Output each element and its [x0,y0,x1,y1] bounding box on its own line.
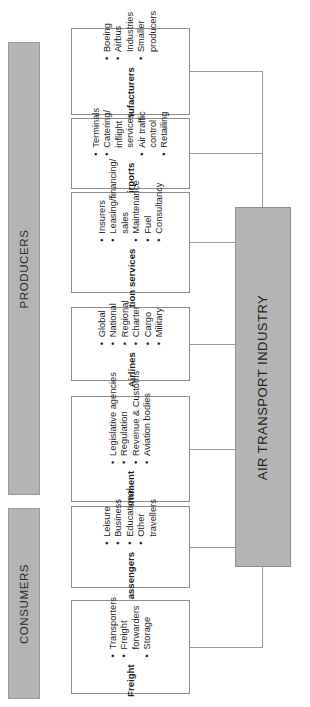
list-item: sales [119,211,130,241]
connector-airports [190,153,263,154]
connector-hub-bottom [262,566,263,584]
list-item: Storage [142,617,153,658]
list-item: Freight [119,620,130,657]
group-banner-producers: PRODUCERS [8,42,40,495]
category-title-freight: Freight [125,664,136,697]
list-item: control [148,119,159,155]
list-item: producers [148,10,159,59]
category-box-aviation-services[interactable]: Aviation services Insurers Leasing/finan… [71,192,190,293]
connector-manufacturers [190,71,263,72]
list-item: Leasing/financing/ [108,158,119,241]
group-banner-consumers-inner: CONSUMERS [9,509,39,698]
category-list-airlines: Global National Regional Charter Cargo M… [96,301,164,346]
category-box-government[interactable]: Government Legislative agencies Regulati… [71,396,190,502]
list-item: Military [153,308,164,345]
list-item: Transporters [108,597,119,657]
category-box-freight[interactable]: Freight Transporters Freight forwarders … [71,600,190,694]
list-item: Fuel [142,215,153,241]
category-box-freight-content: Freight Transporters Freight forwarders … [108,597,154,697]
category-list-aviation-services: Insurers Leasing/financing/ sales Mainte… [96,158,164,241]
list-item: National [108,303,119,345]
list-item: travellers [148,499,159,545]
list-item: forwarders [131,606,142,658]
list-item: Regional [119,301,130,346]
category-list-manufacturers: Boeing Airbus Industries Smaller produce… [102,10,159,59]
list-item: Retailing [159,111,170,155]
list-item: Educational [125,488,136,545]
list-item: services [125,113,136,155]
list-item: Other [136,514,147,545]
list-item: Industries [125,11,136,59]
list-item: Business [113,499,124,545]
group-banner-producers-label: PRODUCERS [18,229,30,308]
list-item: Consultancy [153,182,164,241]
hub-label: AIR TRANSPORT INDUSTRY [256,294,271,480]
list-item: Charter [131,306,142,345]
list-item: Boeing [102,23,113,60]
list-item: Terminals [91,107,102,155]
list-item: Leisure [102,506,113,545]
list-item: Regulation [119,411,130,463]
list-item: Insurers [96,200,107,242]
category-list-airports: Terminals Catering/ inflight services Ai… [91,107,171,155]
category-list-freight: Transporters Freight forwarders Storage [108,597,154,657]
list-item: Air traffic [136,111,147,156]
list-item: Aviation bodies [142,393,153,464]
group-banner-consumers-label: CONSUMERS [18,563,30,643]
list-item: Revenue & Customs [131,371,142,464]
category-box-passengers[interactable]: Passengers Leisure Business Educational … [71,506,190,588]
connector-freight [190,647,263,648]
list-item: Global [96,310,107,345]
list-item: Legislative agencies [108,372,119,464]
list-item: Catering/ [102,110,113,156]
category-box-passengers-content: Passengers Leisure Business Educational … [102,488,159,605]
list-item: inflight [113,120,124,155]
hub-air-transport-industry[interactable]: AIR TRANSPORT INDUSTRY [235,207,291,567]
category-box-manufacturers[interactable]: Manufacturers Boeing Airbus Industries S… [71,28,190,115]
group-banner-producers-inner: PRODUCERS [9,43,39,494]
list-item: Airbus [113,25,124,59]
group-banner-consumers: CONSUMERS [8,508,40,699]
list-item: Cargo [142,312,153,345]
category-list-passengers: Leisure Business Educational Other trave… [102,488,159,545]
list-item: Maintenance [131,180,142,241]
connector-hub-top [262,190,263,208]
hub-inner: AIR TRANSPORT INDUSTRY [236,208,290,566]
list-item: Smaller [136,20,147,60]
category-list-government: Legislative agencies Regulation Revenue … [108,371,154,464]
